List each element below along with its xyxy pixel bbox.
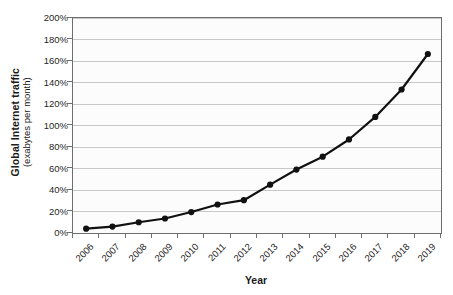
data-point-marker [398,86,404,92]
data-point-marker [320,154,326,160]
data-point-marker [425,51,431,57]
data-point-marker [136,219,142,225]
y-axis-tick-mark [67,189,72,190]
y-axis-tick-label: 200% [34,12,68,23]
y-axis-tick-mark [67,103,72,104]
x-axis-tick-mark [335,233,336,238]
data-point-marker [83,226,89,232]
x-axis-tick-label: 2010 [173,241,201,269]
data-point-marker [346,136,352,142]
x-axis-tick-label: 2015 [305,241,333,269]
x-axis-tick-label: 2017 [357,241,385,269]
x-axis-tick-mark [361,233,362,238]
x-axis-tick-label: 2011 [200,241,228,269]
x-axis-tick-mark [387,233,388,238]
x-axis-tick-mark [282,233,283,238]
x-axis-title: Year [72,274,440,286]
x-axis-tick-label: 2018 [384,241,412,269]
x-axis-tick-mark [203,233,204,238]
x-axis-tick-mark [177,233,178,238]
y-axis-tick-label: 60% [34,162,68,173]
y-axis-tick-mark [67,167,72,168]
x-axis-tick-mark [256,233,257,238]
plot-area [72,17,442,234]
internet-traffic-line-chart: Global Internet traffic (exabytes per mo… [0,0,453,295]
y-axis-tick-mark [67,81,72,82]
series-line-path [86,54,428,229]
data-point-marker [241,197,247,203]
x-axis-tick-label: 2006 [68,241,96,269]
x-axis-tick-mark [440,233,441,238]
y-axis-tick-label: 100% [34,119,68,130]
y-axis-tick-label: 140% [34,76,68,87]
y-axis-tick-mark [67,124,72,125]
data-point-marker [188,209,194,215]
y-axis-tick-label: 0% [34,227,68,238]
y-axis-tick-label: 120% [34,98,68,109]
x-axis-tick-label: 2013 [252,241,280,269]
x-axis-tick-mark [125,233,126,238]
x-axis-tick-mark [230,233,231,238]
x-axis-tick-label: 2019 [410,241,438,269]
data-series-line [73,18,441,233]
y-axis-tick-label: 20% [34,205,68,216]
y-axis-title-line1: Global Internet traffic [10,68,22,176]
x-axis-tick-label: 2007 [95,241,123,269]
x-axis-tick-label: 2008 [121,241,149,269]
x-axis-tick-label: 2016 [331,241,359,269]
x-axis-tick-label: 2009 [147,241,175,269]
y-axis-tick-mark [67,60,72,61]
y-axis-tick-label: 180% [34,33,68,44]
x-axis-tick-mark [72,233,73,238]
y-axis-tick-mark [67,17,72,18]
y-axis-tick-mark [67,210,72,211]
data-point-marker [214,201,220,207]
y-axis-tick-label: 160% [34,55,68,66]
y-axis-tick-mark [67,146,72,147]
y-axis-title-line2: (exabytes per month) [22,68,33,176]
data-point-marker [162,215,168,221]
data-point-marker [293,166,299,172]
data-point-marker [267,182,273,188]
x-axis-tick-mark [309,233,310,238]
x-axis-tick-label: 2012 [226,241,254,269]
y-axis-tick-label: 40% [34,184,68,195]
y-axis-tick-labels: 0%20%40%60%80%100%120%140%160%180%200% [34,0,68,295]
x-axis-tick-mark [151,233,152,238]
y-axis-tick-label: 80% [34,141,68,152]
y-axis-tick-mark [67,38,72,39]
x-axis-tick-mark [98,233,99,238]
data-point-marker [372,114,378,120]
x-axis-tick-mark [414,233,415,238]
data-point-marker [109,223,115,229]
x-axis-tick-label: 2014 [279,241,307,269]
